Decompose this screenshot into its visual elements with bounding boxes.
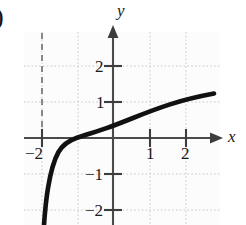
y-axis-label: y	[117, 2, 125, 19]
plot-area	[0, 0, 246, 225]
graph-figure: )	[0, 0, 246, 225]
x-tick-label-1: 1	[146, 145, 155, 162]
x-axis-label: x	[228, 128, 236, 145]
y-tick-label-neg1: −1	[85, 166, 103, 183]
x-tick-label-2: 2	[181, 145, 190, 162]
plot-background	[24, 32, 220, 225]
x-tick-label-neg2: −2	[25, 145, 43, 162]
y-tick-label-2: 2	[95, 58, 104, 75]
y-axis-arrowhead	[108, 25, 119, 38]
y-tick-label-1: 1	[96, 94, 105, 111]
y-tick-label-neg2: −2	[85, 202, 103, 219]
